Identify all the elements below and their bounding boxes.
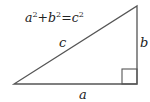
pythagorean-diagram: a2+b2=c2 c b a — [0, 0, 150, 102]
right-angle-marker — [122, 69, 137, 84]
horizontal-leg-label: a — [79, 87, 87, 102]
vertical-leg-label: b — [140, 35, 148, 50]
hypotenuse-label: c — [59, 35, 67, 50]
formula: a2+b2=c2 — [25, 10, 84, 25]
